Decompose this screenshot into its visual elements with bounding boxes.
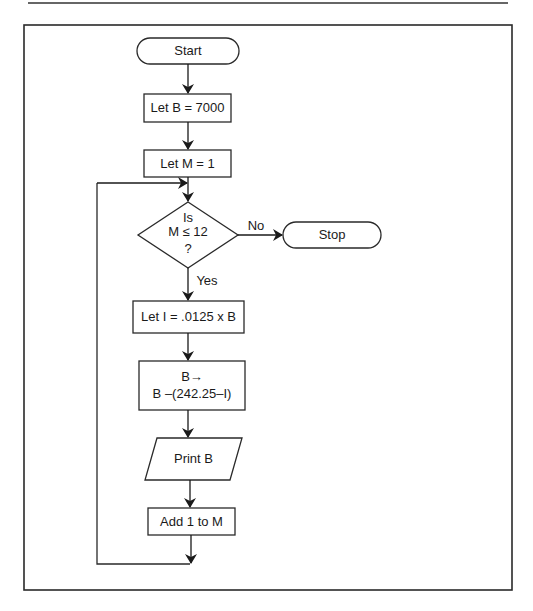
decision-line3: ? [138,241,238,256]
start-label: Start [137,43,239,58]
increment-label: Add 1 to M [148,514,235,529]
yes-edge-label: Yes [193,273,221,288]
init-m-label: Let M = 1 [144,156,231,171]
stop-label: Stop [283,227,381,242]
update-b-line2: B –(242.25–I) [139,386,245,401]
flowchart-canvas [0,0,533,611]
update-b-line1: B→ [139,369,245,384]
init-b-label: Let B = 7000 [144,100,231,115]
no-edge-label: No [244,218,268,233]
interest-label: Let I = .0125 x B [133,309,244,324]
decision-line1: Is [138,210,238,225]
print-b-label: Print B [145,451,242,466]
decision-line2: M ≤ 12 [138,224,238,239]
